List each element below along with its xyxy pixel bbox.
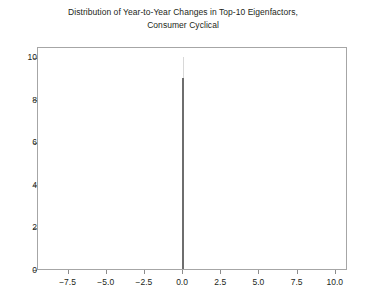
x-axis-tick-label: 10.0 xyxy=(313,277,357,287)
y-axis-tick-label: 0 xyxy=(11,266,37,275)
x-axis-tick-mark xyxy=(68,270,69,274)
histogram-figure: Distribution of Year-to-Year Changes in … xyxy=(0,0,366,307)
y-axis-tick-label: 2 xyxy=(11,223,37,232)
x-axis-tick-mark xyxy=(220,270,221,274)
y-axis-tick-label: 8 xyxy=(11,96,37,105)
chart-title-line-2: Consumer Cyclical xyxy=(0,19,366,32)
x-axis-tick-mark xyxy=(335,270,336,274)
y-axis-tick-label: 4 xyxy=(11,181,37,190)
y-axis-tick-label: 10 xyxy=(11,53,37,62)
x-axis-tick-mark xyxy=(297,270,298,274)
page-title: Distribution of Year-to-Year Changes in … xyxy=(0,6,366,31)
chart-title-line-1: Distribution of Year-to-Year Changes in … xyxy=(0,6,366,19)
y-axis-tick-label: 6 xyxy=(11,138,37,147)
x-axis-tick-mark xyxy=(182,270,183,274)
x-axis-tick-mark xyxy=(258,270,259,274)
x-axis-tick-mark xyxy=(144,270,145,274)
x-axis-tick-mark xyxy=(106,270,107,274)
histogram-bar xyxy=(182,78,184,269)
plot-area xyxy=(37,47,347,270)
